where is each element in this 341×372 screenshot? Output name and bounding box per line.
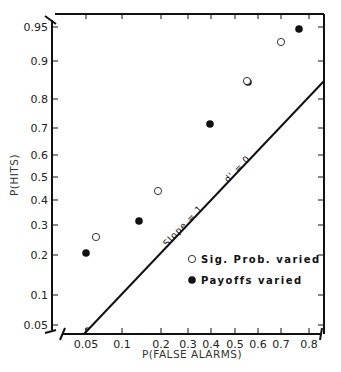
open-circle-marker	[243, 77, 250, 84]
x-tick-label: 0.1	[113, 338, 131, 351]
filled-circle-marker	[295, 25, 303, 33]
y-tick-label: 0.3	[31, 219, 49, 232]
x-ticks: 0.050.10.20.30.40.50.60.70.8	[74, 14, 318, 351]
x-tick-label: 0.05	[74, 338, 99, 351]
open-circle-marker	[154, 187, 161, 194]
filled-circle-marker	[135, 217, 143, 225]
legend-label-payoffs: Payoffs varied	[201, 275, 303, 286]
x-tick-label: 0.6	[249, 338, 267, 351]
y-tick-label: 0.1	[31, 289, 49, 302]
y-tick-label: 0.4	[31, 194, 49, 207]
x-tick-label: 0.8	[300, 338, 318, 351]
legend-open-circle-icon	[188, 255, 195, 262]
legend: Sig. Prob. varied Payoffs varied	[188, 254, 321, 286]
y-tick-label: 0.2	[31, 249, 49, 262]
y-axis-title: P(HITS)	[8, 154, 20, 196]
dprime-label: d' = 0	[222, 153, 252, 184]
slope-label: Slope = 1	[161, 203, 205, 248]
open-circle-marker	[277, 38, 284, 45]
legend-filled-circle-icon	[188, 276, 196, 284]
filled-circle-marker	[82, 249, 90, 257]
filled-circle-marker	[206, 120, 214, 128]
legend-label-sig-prob: Sig. Prob. varied	[201, 254, 321, 265]
y-tick-label: 0.6	[31, 149, 49, 162]
y-tick-label: 0.95	[24, 21, 49, 34]
y-tick-label: 0.7	[31, 122, 49, 135]
y-tick-label: 0.8	[31, 93, 49, 106]
axis-break-bottom-right	[320, 328, 322, 340]
plot-frame	[45, 14, 324, 340]
chance-diagonal-line	[84, 81, 324, 334]
x-tick-label: 0.7	[272, 338, 290, 351]
y-tick-label: 0.5	[31, 171, 49, 184]
x-axis-title: P(FALSE ALARMS)	[142, 348, 242, 360]
y-tick-label: 0.9	[31, 55, 49, 68]
y-tick-label: 0.05	[24, 319, 49, 332]
roc-chart: 0.950.90.80.70.60.50.40.30.20.10.05 0.05…	[0, 0, 341, 372]
open-circle-marker	[92, 233, 99, 240]
